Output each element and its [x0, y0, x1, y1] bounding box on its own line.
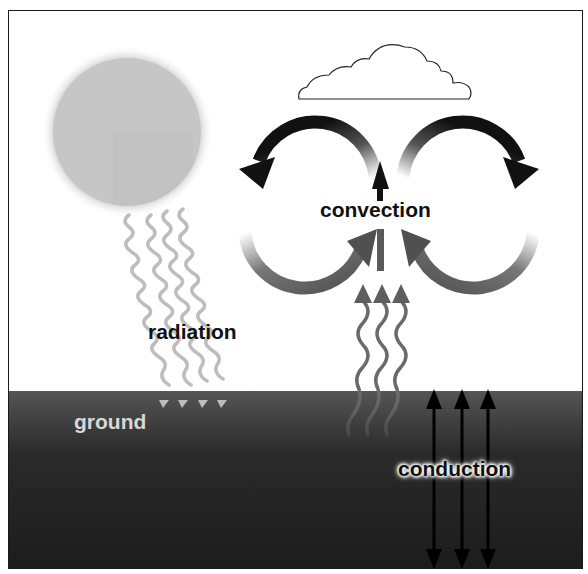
conduction-label: conduction: [398, 457, 511, 481]
sun-icon: [41, 46, 213, 218]
heat-transfer-scene: [9, 11, 583, 569]
arrowhead-right-down: [503, 157, 539, 189]
radiation-waves: [125, 209, 223, 385]
heat-wave-arrowheads: [354, 284, 410, 303]
radiation-label: radiation: [148, 320, 237, 344]
convection-lower-shaft: [377, 229, 384, 271]
cloud-icon: [299, 45, 471, 99]
ground-label: ground: [74, 410, 146, 434]
convection-label: convection: [320, 198, 431, 222]
arrowhead-left-down: [239, 157, 275, 189]
diagram-frame: [8, 10, 583, 569]
